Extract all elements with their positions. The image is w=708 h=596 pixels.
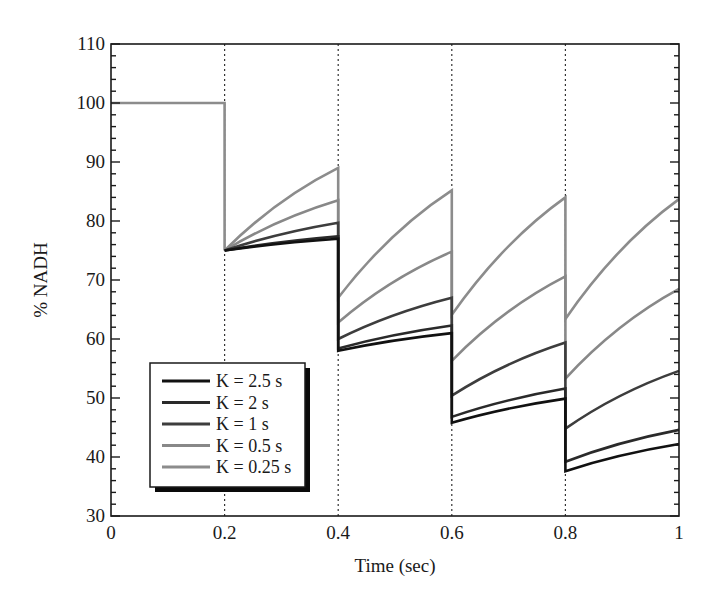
y-tick-label: 90 (86, 151, 105, 172)
y-axis-label: % NADH (30, 242, 51, 318)
legend-label: K = 0.5 s (216, 436, 282, 456)
y-tick-label: 80 (86, 210, 105, 231)
legend-label: K = 0.25 s (216, 457, 291, 477)
y-tick-label: 50 (86, 387, 105, 408)
x-tick-label: 0.2 (213, 522, 237, 543)
legend-label: K = 2 s (216, 393, 269, 413)
x-tick-label: 0.4 (326, 522, 350, 543)
y-tick-label: 100 (77, 92, 106, 113)
x-tick-label: 0.8 (554, 522, 578, 543)
x-tick-label: 1 (674, 522, 684, 543)
legend: K = 2.5 sK = 2 sK = 1 sK = 0.5 sK = 0.25… (150, 363, 310, 492)
y-tick-label: 60 (86, 328, 105, 349)
legend-label: K = 1 s (216, 414, 269, 434)
y-tick-label: 110 (77, 33, 105, 54)
x-tick-label: 0.6 (440, 522, 464, 543)
x-axis-label: Time (sec) (354, 555, 435, 577)
nadh-chart: 3040506070809010011000.20.40.60.81 Time … (0, 0, 708, 596)
y-tick-label: 40 (86, 446, 105, 467)
x-tick-label: 0 (106, 522, 116, 543)
y-tick-label: 70 (86, 269, 105, 290)
legend-label: K = 2.5 s (216, 371, 282, 391)
y-tick-label: 30 (86, 505, 105, 526)
initial-baseline-line (111, 103, 225, 251)
